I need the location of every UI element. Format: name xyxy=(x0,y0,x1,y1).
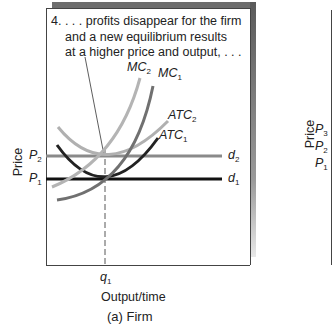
panel-b-p1-label: P1 xyxy=(315,156,328,172)
x-axis-title: Output/time xyxy=(101,290,166,304)
panel-b-p3-label: P3 xyxy=(315,122,328,138)
callout-line-3: at a higher price and output, . . . xyxy=(51,45,242,61)
callout-header-bar xyxy=(52,2,256,8)
panel-a-caption: (a) Firm xyxy=(107,309,153,324)
p2-tick-label: P2 xyxy=(29,148,42,164)
atc2-label: ATC2 xyxy=(168,108,197,124)
q1-tick-label: q1 xyxy=(100,270,111,286)
mc1-label: MC1 xyxy=(158,66,182,82)
callout-line-2: and a new equilibrium results xyxy=(51,30,242,46)
atc1-label: ATC1 xyxy=(159,128,188,144)
d2-label: d2 xyxy=(228,148,239,164)
callout-line-1: 4. . . . profits disappear for the firm xyxy=(51,14,242,30)
panel-b-p2-label: P2 xyxy=(315,139,328,155)
d1-label: d1 xyxy=(228,171,239,187)
y-axis-title: Price xyxy=(11,142,25,182)
p1-tick-label: P1 xyxy=(29,171,42,187)
mc2-label: MC2 xyxy=(127,60,151,76)
callout-pointer xyxy=(85,57,104,155)
callout-annotation: 4. . . . profits disappear for the firm … xyxy=(51,14,242,61)
